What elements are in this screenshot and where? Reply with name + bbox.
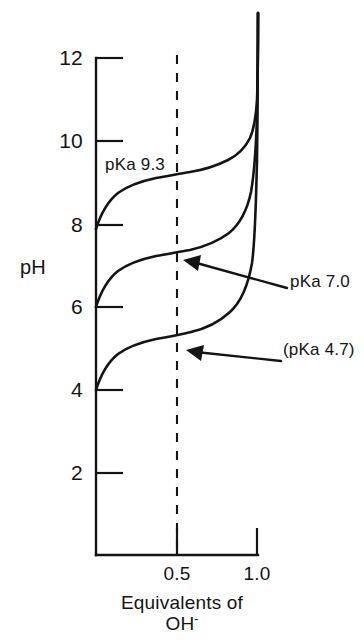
x-tick-marks xyxy=(177,528,257,555)
x-axis-title-line1: Equivalents of xyxy=(0,593,364,613)
annotation-arrow-pka-4-7 xyxy=(186,345,281,361)
x-axis-title-line2: OH- xyxy=(0,614,364,634)
series-label-pka-9-3: pKa 9.3 xyxy=(105,155,165,175)
series-label-pka-7-0: pKa 7.0 xyxy=(290,272,350,292)
y-tick-label-8: 8 xyxy=(43,213,83,237)
y-tick-label-2: 2 xyxy=(43,461,83,485)
x-axis-title-oh: OH xyxy=(165,613,194,634)
y-axis-title: pH xyxy=(20,256,46,279)
y-tick-label-12: 12 xyxy=(43,46,83,70)
x-axis-title-charge-superscript: - xyxy=(194,612,198,626)
y-tick-label-10: 10 xyxy=(43,129,83,153)
chart-plot-area xyxy=(0,0,364,642)
x-tick-label-0-5: 0.5 xyxy=(147,563,207,585)
series-label-pka-4-7: (pKa 4.7) xyxy=(283,340,355,360)
x-tick-label-1-0: 1.0 xyxy=(227,563,287,585)
annotation-arrow-pka-7-0 xyxy=(183,255,287,288)
y-tick-marks xyxy=(96,58,123,473)
y-tick-label-6: 6 xyxy=(43,295,83,319)
y-tick-label-4: 4 xyxy=(43,378,83,402)
curve-pka-9-3 xyxy=(96,13,258,229)
titration-curve-figure: 12 10 8 6 4 2 pH 0.5 1.0 Equivalents of … xyxy=(0,0,364,642)
